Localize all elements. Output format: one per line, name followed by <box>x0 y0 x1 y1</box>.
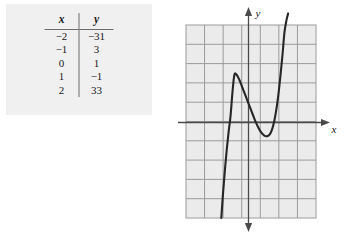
table-row: −1 3 <box>45 43 114 57</box>
xy-value-table: x y −2 −31 −1 3 0 1 1 −1 <box>45 13 114 97</box>
cell-y: 33 <box>79 84 114 98</box>
y-axis-label: y <box>255 7 261 19</box>
cell-x: 1 <box>45 70 80 84</box>
table-head: x y <box>45 13 114 29</box>
cell-x: 0 <box>45 57 80 71</box>
cell-x: 2 <box>45 84 80 98</box>
table-row: 2 33 <box>45 84 114 98</box>
cubic-function-graph: x y <box>178 0 353 239</box>
table-body: −2 −31 −1 3 0 1 1 −1 2 33 <box>45 29 114 97</box>
x-axis-label: x <box>331 123 337 135</box>
x-axis-arrow-icon <box>321 119 330 126</box>
table-row: 0 1 <box>45 57 114 71</box>
y-axis-arrow-down-icon <box>245 223 252 232</box>
cell-y: 1 <box>79 57 114 71</box>
figure-root: x y −2 −31 −1 3 0 1 1 −1 <box>0 0 353 239</box>
value-table-panel: x y −2 −31 −1 3 0 1 1 −1 <box>6 4 152 115</box>
y-axis-arrow-up-icon <box>245 7 252 16</box>
cell-x: −1 <box>45 43 80 57</box>
column-header-x: x <box>45 13 80 29</box>
cell-x: −2 <box>45 29 80 43</box>
cell-y: −31 <box>79 29 114 43</box>
table-header-row: x y <box>45 13 114 29</box>
cell-y: −1 <box>79 70 114 84</box>
cell-y: 3 <box>79 43 114 57</box>
table-row: −2 −31 <box>45 29 114 43</box>
column-header-y: y <box>79 13 114 29</box>
table-row: 1 −1 <box>45 70 114 84</box>
graph-panel: x y <box>178 0 353 239</box>
